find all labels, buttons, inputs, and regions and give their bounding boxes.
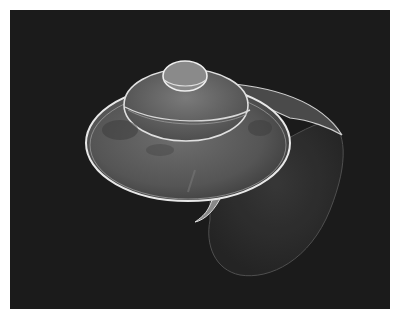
snail-shell-image bbox=[10, 10, 390, 309]
micrograph-frame bbox=[10, 10, 390, 309]
